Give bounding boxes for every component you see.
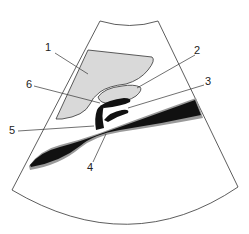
label-1: 1 [45, 42, 51, 53]
label-6: 6 [26, 79, 32, 90]
label-4: 4 [87, 162, 93, 173]
label-2: 2 [194, 45, 200, 56]
ultrasound-diagram [0, 0, 249, 234]
label-3: 3 [205, 76, 211, 87]
label-5: 5 [9, 125, 15, 136]
